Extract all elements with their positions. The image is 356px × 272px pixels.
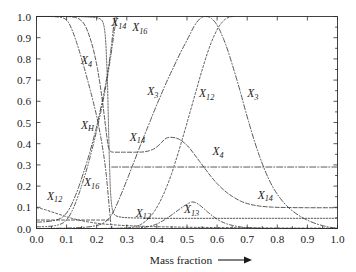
x-tick-label: 0.9 [300,233,314,245]
curve-label-subscript: 14 [137,136,145,145]
x-tick-label: 0.1 [60,233,74,245]
x-tick-label: 0.7 [240,233,254,245]
curve-label-subscript: 4 [88,60,92,69]
curve-label-subscript: 12 [54,195,62,204]
curve-label-subscript: 14 [118,22,126,31]
curve-label-subscript: 16 [139,27,148,36]
x-tick-label: 1.0 [331,233,345,245]
figure-container: 0.00.10.20.30.40.50.60.70.80.91.0 0.00.1… [0,0,356,272]
chart-background [0,0,356,272]
curve-label-subscript: 12 [143,212,151,221]
y-tick-label: 1.0 [17,11,31,23]
y-tick-label: 0.0 [17,223,31,235]
x-tick-label: 0.6 [210,233,224,245]
line-chart: 0.00.10.20.30.40.50.60.70.80.91.0 0.00.1… [0,0,356,272]
x-axis-title: Mass fraction [150,254,213,266]
y-tick-label: 0.5 [17,117,31,129]
y-tick-label: 0.7 [17,74,31,86]
curve-label-subscript: 3 [253,93,258,102]
y-tick-label: 0.8 [17,53,31,65]
curve-label-subscript: H [87,124,95,133]
x-tick-label: 0.3 [120,233,134,245]
curve-label-subscript: 4 [220,151,224,160]
y-tick-label: 0.9 [17,32,31,44]
x-tick-label: 0.0 [30,233,44,245]
y-tick-label: 0.2 [17,180,31,192]
x-tick-label: 0.2 [90,233,104,245]
curve-label-subscript: 12 [206,93,214,102]
x-tick-label: 0.5 [180,233,194,245]
curve-label-subscript: 13 [191,209,199,218]
curve-label-subscript: 16 [91,182,100,191]
curve-label-subscript: 3 [153,91,158,100]
curve-label-subscript: 14 [265,194,273,203]
y-tick-label: 0.1 [17,201,31,213]
y-tick-label: 0.6 [17,95,31,107]
x-tick-label: 0.8 [270,233,284,245]
y-tick-label: 0.3 [17,159,31,171]
y-tick-label: 0.4 [17,138,31,150]
x-tick-label: 0.4 [150,233,164,245]
